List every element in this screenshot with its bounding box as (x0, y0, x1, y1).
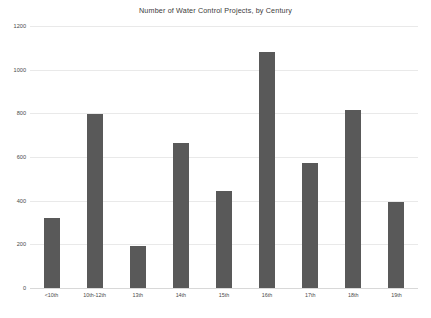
bar (259, 52, 275, 288)
bar-chart-figure: Number of Water Control Projects, by Cen… (0, 0, 431, 318)
x-axis-tick-label: 16th (262, 292, 273, 298)
x-axis-tick-label: 17th (305, 292, 316, 298)
x-axis-tick-label: 18th (348, 292, 359, 298)
bar (44, 218, 60, 288)
x-axis-tick-label: <10th (45, 292, 59, 298)
x-axis-tick-labels: <10th10th-12th13th14th15th16th17th18th19… (30, 292, 418, 306)
y-axis-tick-label: 800 (0, 110, 26, 116)
x-axis-tick-label: 19th (391, 292, 402, 298)
x-axis-tick-label: 13th (133, 292, 144, 298)
bar (87, 114, 103, 288)
x-axis-tick-label: 10th-12th (83, 292, 106, 298)
bar (216, 191, 232, 288)
chart-title: Number of Water Control Projects, by Cen… (0, 6, 431, 15)
y-axis-tick-label: 400 (0, 198, 26, 204)
gridline (30, 288, 418, 289)
bar (388, 202, 404, 288)
bar (345, 110, 361, 288)
bar (173, 143, 189, 288)
y-axis-tick-label: 1000 (0, 67, 26, 73)
x-axis-tick-label: 15th (219, 292, 230, 298)
bar (130, 246, 146, 288)
y-axis-tick-label: 600 (0, 154, 26, 160)
x-axis-tick-label: 14th (176, 292, 187, 298)
bars-layer (30, 26, 418, 288)
y-axis-tick-label: 1200 (0, 23, 26, 29)
y-axis-tick-label: 200 (0, 241, 26, 247)
y-axis-tick-labels: 020040060080010001200 (0, 26, 26, 288)
bar (302, 163, 318, 288)
y-axis-tick-label: 0 (0, 285, 26, 291)
